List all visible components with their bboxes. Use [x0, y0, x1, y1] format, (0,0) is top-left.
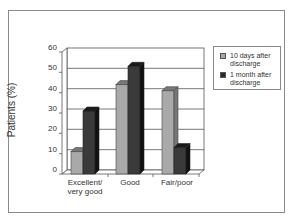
x-category-good: Good: [112, 178, 148, 187]
bar-good-1month: [128, 62, 144, 174]
legend-swatch-dark: [220, 72, 226, 78]
legend-swatch-light: [220, 53, 226, 59]
x-category-excellent: Excellent/ very good: [62, 178, 108, 196]
chart-legend: 10 days after discharge 1 month after di…: [213, 46, 281, 90]
chart-plot: [0, 0, 293, 222]
bar-fairpoor-1month: [174, 144, 190, 174]
x-category-fairpoor: Fair/poor: [155, 178, 199, 187]
bar-excellent-1month: [83, 107, 99, 174]
